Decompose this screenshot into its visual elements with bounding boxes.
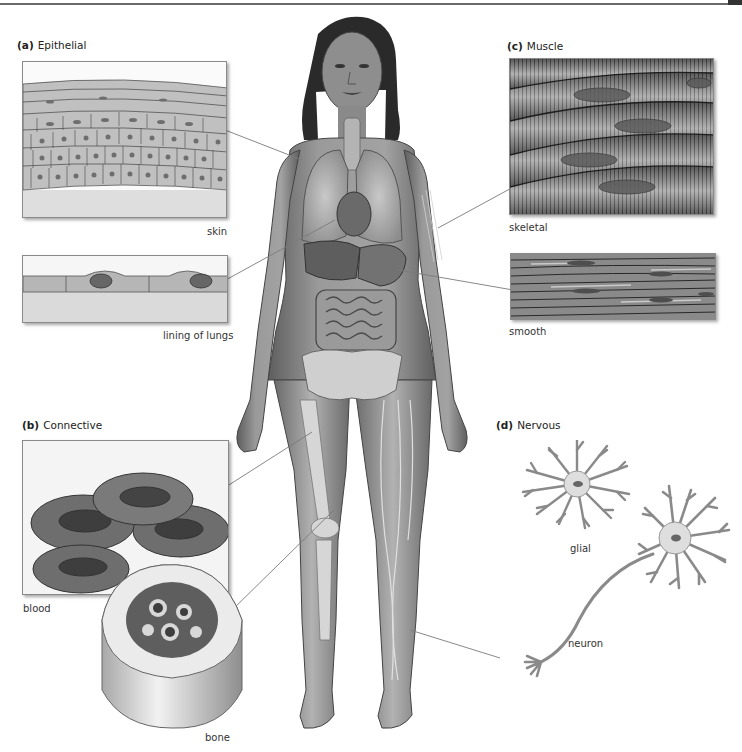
panel-skeletal-muscle: [509, 58, 714, 215]
lung-lining-illustration: [23, 256, 228, 323]
bone-cross-section-illustration: [92, 560, 252, 735]
smooth-muscle-illustration: [511, 254, 716, 320]
caption-bone: bone: [205, 732, 230, 743]
section-heading-connective: (b)Connective: [22, 419, 102, 431]
section-letter: (b): [22, 419, 39, 431]
nerve-cells-illustration: [495, 440, 742, 685]
section-title: Connective: [43, 419, 102, 431]
neuron-cell: [525, 486, 729, 676]
caption-skeletal: skeletal: [509, 222, 548, 233]
section-title: Nervous: [517, 419, 560, 431]
panel-skin: [22, 61, 227, 218]
panel-lining-of-lungs: [22, 255, 228, 323]
caption-smooth: smooth: [509, 326, 546, 337]
caption-glial: glial: [570, 543, 591, 554]
caption-lining-of-lungs: lining of lungs: [163, 330, 233, 341]
section-letter: (d): [496, 419, 513, 431]
section-title: Muscle: [527, 40, 563, 52]
caption-skin: skin: [207, 226, 227, 237]
section-letter: (c): [507, 40, 523, 52]
skin-cells-illustration: [23, 62, 227, 218]
leader-skin: [225, 130, 302, 160]
section-heading-nervous: (d)Nervous: [496, 419, 561, 431]
caption-neuron: neuron: [568, 638, 603, 649]
panel-smooth-muscle: [510, 253, 716, 320]
section-heading-muscle: (c)Muscle: [507, 40, 563, 52]
skeletal-muscle-illustration: [510, 59, 714, 215]
leader-neuron: [410, 630, 500, 658]
section-title: Epithelial: [38, 39, 87, 51]
leader-smooth: [398, 270, 513, 290]
leader-skeletal: [438, 185, 517, 228]
section-letter: (a): [17, 39, 34, 51]
section-heading-epithelial: (a)Epithelial: [17, 39, 86, 51]
leader-lining: [222, 220, 335, 282]
caption-blood: blood: [23, 603, 51, 614]
